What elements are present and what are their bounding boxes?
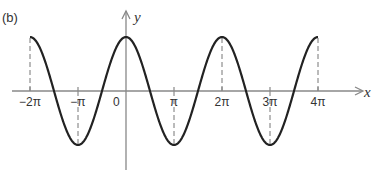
y-axis-label: y [132,9,141,25]
origin-label: 0 [113,95,120,109]
x-tick-label: 4π [311,95,326,109]
plot-canvas: (b) y x 0 −2π−ππ2π3π4π [0,0,375,176]
x-axis-label: x [363,84,371,100]
figure-label: (b) [2,10,18,25]
x-tick-labels: −2π−ππ2π3π4π [19,95,325,109]
cosine-diagram: (b) y x 0 −2π−ππ2π3π4π [0,0,375,176]
x-tick-label: π [170,95,178,109]
x-tick-label: −2π [19,95,41,109]
x-tick-label: 3π [263,95,278,109]
x-tick-label: 2π [215,95,230,109]
x-tick-label: −π [70,95,85,109]
